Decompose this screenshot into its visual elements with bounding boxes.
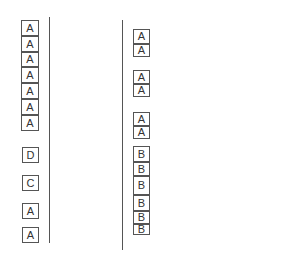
label-box: A [22, 203, 39, 219]
label-box: B [133, 195, 150, 211]
label-box: A [133, 44, 150, 57]
label-box: A [133, 112, 150, 126]
label-box: A [133, 126, 150, 139]
divider-line [122, 20, 123, 250]
label-box: A [21, 99, 39, 115]
label-box: A [22, 227, 39, 243]
label-box: B [133, 224, 150, 235]
label-box: A [21, 115, 39, 131]
label-box: B [133, 146, 150, 162]
label-box: C [22, 175, 39, 191]
label-box: A [133, 70, 150, 84]
label-box: A [21, 83, 39, 99]
label-box: A [21, 67, 39, 83]
label-box: A [21, 52, 39, 67]
label-box: B [133, 162, 150, 176]
label-box: A [133, 29, 150, 44]
label-box: B [133, 176, 150, 195]
label-box: A [21, 36, 39, 52]
label-box: A [21, 20, 39, 36]
divider-line [49, 17, 50, 243]
label-box: D [22, 147, 39, 163]
label-box: A [133, 84, 150, 97]
